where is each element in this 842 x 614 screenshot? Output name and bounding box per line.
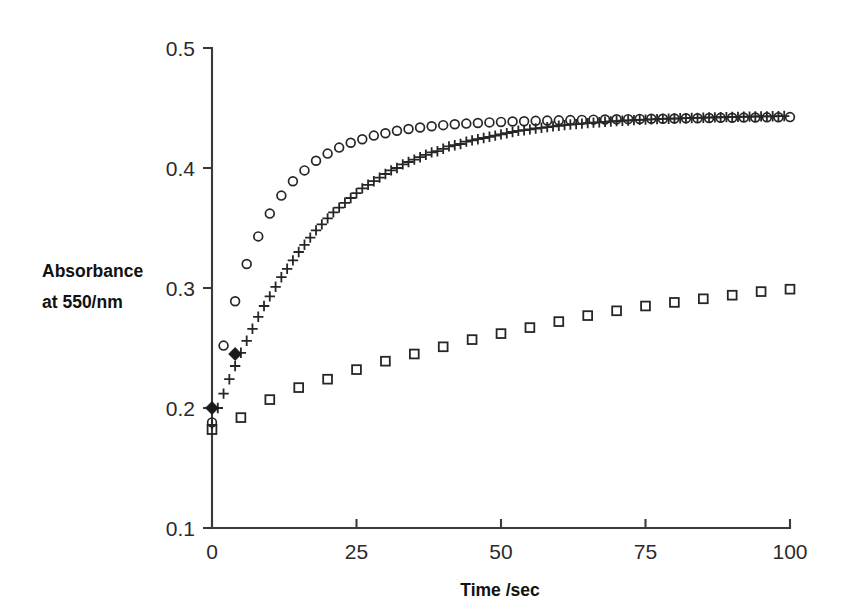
marker-plus — [455, 139, 465, 149]
x-tick-label: 100 — [772, 540, 807, 563]
marker-circle-open — [312, 156, 321, 165]
marker-plus — [276, 272, 286, 282]
x-tick-label: 75 — [634, 540, 657, 563]
marker-square-open — [468, 335, 477, 344]
marker-square-open — [265, 395, 274, 404]
marker-plus — [270, 282, 280, 292]
marker-square-open — [352, 365, 361, 374]
marker-plus — [507, 127, 517, 137]
marker-circle-open — [346, 138, 355, 147]
y-tick-label: 0.5 — [166, 37, 195, 60]
marker-circle-open — [219, 341, 228, 350]
series-open-squares — [208, 285, 795, 434]
marker-circle-open — [520, 117, 529, 126]
y-tick-label: 0.3 — [166, 277, 195, 300]
y-tick-labels: 0.10.20.30.40.5 — [166, 37, 196, 540]
marker-plus — [299, 240, 309, 250]
marker-plus — [288, 255, 298, 265]
data-series — [206, 111, 795, 434]
marker-plus — [346, 193, 356, 203]
marker-plus — [294, 247, 304, 257]
marker-square-open — [670, 298, 679, 307]
marker-square-open — [583, 311, 592, 320]
marker-plus — [265, 291, 275, 301]
marker-circle-open — [254, 232, 263, 241]
marker-square-open — [497, 329, 506, 338]
marker-circle-open — [381, 129, 390, 138]
x-tick-label: 50 — [489, 540, 512, 563]
marker-plus — [334, 202, 344, 212]
marker-circle-open — [462, 119, 471, 128]
marker-plus — [247, 324, 257, 334]
marker-plus — [490, 130, 500, 140]
marker-circle-open — [450, 120, 459, 129]
marker-circle-open — [393, 126, 402, 135]
marker-plus — [444, 141, 454, 151]
y-axis-label-line2: at 550/nm — [42, 292, 123, 312]
marker-plus — [241, 336, 251, 346]
y-tick-label: 0.4 — [166, 157, 196, 180]
marker-plus — [230, 361, 240, 371]
marker-plus — [450, 140, 460, 150]
marker-circle-open — [369, 131, 378, 140]
marker-diamond-filled — [229, 348, 242, 361]
marker-plus — [496, 129, 506, 139]
marker-circle-open — [323, 149, 332, 158]
marker-plus — [502, 128, 512, 138]
marker-plus — [426, 147, 436, 157]
marker-plus — [218, 388, 228, 398]
marker-circle-open — [289, 177, 298, 186]
x-tick-labels: 0255075100 — [206, 540, 807, 563]
x-tick-label: 25 — [345, 540, 368, 563]
marker-square-open — [612, 306, 621, 315]
x-tick-label: 0 — [206, 540, 218, 563]
marker-square-open — [786, 285, 795, 294]
marker-circle-open — [404, 125, 413, 134]
marker-circle-open — [358, 135, 367, 144]
marker-plus — [421, 150, 431, 160]
y-axis-label-line1: Absorbance — [42, 261, 143, 281]
marker-square-open — [294, 383, 303, 392]
series-plus-markers — [207, 111, 790, 430]
marker-square-open — [323, 375, 332, 384]
x-axis-label: Time /sec — [460, 580, 540, 600]
marker-circle-open — [473, 119, 482, 128]
marker-circle-open — [786, 113, 795, 122]
marker-circle-open — [242, 260, 251, 269]
marker-circle-open — [231, 297, 240, 306]
series-open-circles — [208, 113, 795, 427]
marker-square-open — [728, 291, 737, 300]
marker-circle-open — [300, 166, 309, 175]
marker-plus — [432, 146, 442, 156]
absorbance-vs-time-scatter-chart: 0255075100 0.10.20.30.40.5 Time /sec Abs… — [0, 0, 842, 614]
marker-plus — [467, 135, 477, 145]
marker-plus — [415, 152, 425, 162]
marker-plus — [484, 132, 494, 142]
marker-plus — [403, 157, 413, 167]
marker-plus — [317, 219, 327, 229]
marker-circle-open — [508, 117, 517, 126]
marker-plus — [340, 198, 350, 208]
marker-square-open — [237, 413, 246, 422]
marker-plus — [311, 225, 321, 235]
marker-square-open — [439, 342, 448, 351]
y-tick-label: 0.2 — [166, 397, 195, 420]
marker-plus — [305, 232, 315, 242]
marker-square-open — [381, 357, 390, 366]
marker-plus — [351, 188, 361, 198]
marker-square-open — [757, 287, 766, 296]
marker-square-open — [699, 294, 708, 303]
marker-diamond-filled — [206, 402, 219, 415]
marker-circle-open — [265, 209, 274, 218]
marker-circle-open — [416, 123, 425, 132]
marker-plus — [473, 134, 483, 144]
marker-circle-open — [485, 118, 494, 127]
y-tick-label: 0.1 — [166, 517, 195, 540]
marker-circle-open — [427, 122, 436, 131]
marker-plus — [438, 144, 448, 154]
marker-square-open — [641, 302, 650, 311]
marker-square-open — [410, 350, 419, 359]
marker-circle-open — [439, 121, 448, 130]
marker-plus — [282, 264, 292, 274]
marker-plus — [478, 133, 488, 143]
